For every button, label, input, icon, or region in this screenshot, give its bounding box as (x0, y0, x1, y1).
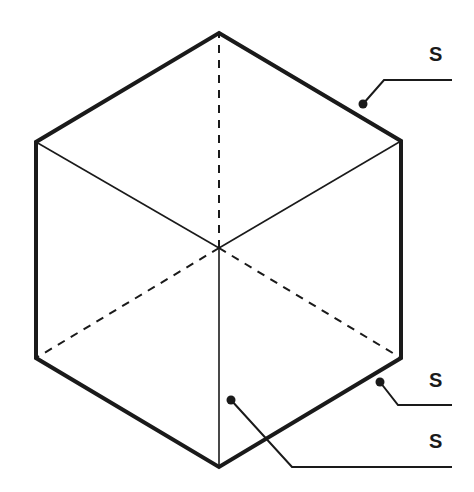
hidden-edge-to-lower-left (36, 248, 219, 358)
callout-label: S (429, 43, 442, 65)
callout-2: S (376, 369, 453, 405)
inner-edge-to-upper-left (36, 142, 219, 248)
hidden-edge-to-lower-right (219, 248, 401, 358)
leader-line (231, 400, 452, 467)
callout-label: S (429, 369, 442, 391)
leader-line (363, 80, 452, 104)
callout-1: S (359, 43, 453, 109)
callout-label: S (429, 430, 442, 452)
callout-3: S (227, 396, 453, 468)
leader-dot (376, 378, 385, 387)
leader-dot (227, 396, 236, 405)
inner-edges (36, 141, 401, 467)
leader-dot (359, 100, 368, 109)
isometric-cube-diagram: S S S (0, 0, 474, 492)
inner-edge-to-upper-right (219, 141, 401, 248)
